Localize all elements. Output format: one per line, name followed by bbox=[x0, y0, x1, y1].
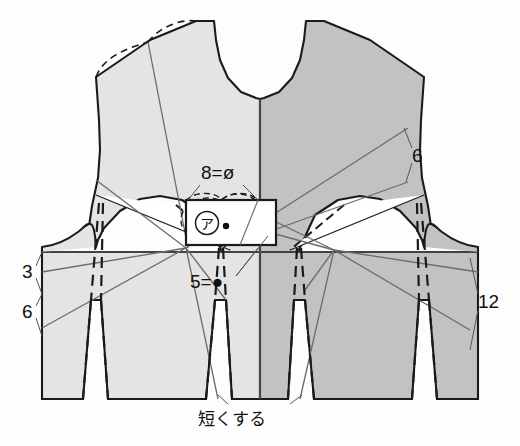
label-right-upper: 6 bbox=[412, 145, 423, 166]
center-marker-box-group: ア bbox=[181, 193, 276, 245]
label-left-lower: 6 bbox=[22, 301, 33, 322]
label-top-center: 8=ø bbox=[201, 162, 235, 183]
label-left-upper: 3 bbox=[22, 261, 33, 282]
box-kana-label: ア bbox=[200, 216, 214, 232]
pattern-drawing: ア bbox=[0, 0, 520, 446]
label-bottom-note: 短くする bbox=[198, 409, 266, 429]
pattern-diagram: ア bbox=[0, 0, 520, 446]
label-mid-center: 5=● bbox=[190, 271, 223, 292]
label-right-lower: 12 bbox=[478, 291, 499, 312]
bust-point-dot bbox=[223, 223, 229, 229]
